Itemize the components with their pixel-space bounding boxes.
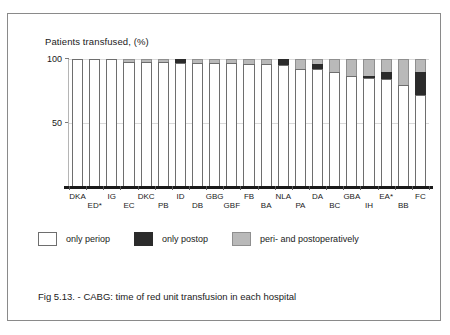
- bar-segment-only-periop: [312, 69, 323, 187]
- bar-segment-only-periop: [192, 63, 203, 187]
- x-axis-tick: [412, 186, 413, 190]
- bar-ed: [89, 59, 100, 187]
- legend-item-only-postop: only postop: [134, 232, 208, 246]
- x-axis-label-gbf: GBF: [218, 201, 246, 210]
- x-axis-tick: [360, 186, 361, 190]
- bar-segment-only-periop: [243, 64, 254, 187]
- x-axis-label-bc: BC: [321, 201, 349, 210]
- x-axis-label-dkc: DKC: [132, 192, 160, 201]
- bar-segment-only-periop: [175, 63, 186, 187]
- bar-db: [192, 59, 203, 187]
- bar-segment-only-periop: [261, 64, 272, 187]
- x-axis-label-ig: IG: [98, 192, 126, 201]
- bar-dkc: [141, 59, 152, 187]
- x-axis-tick: [69, 186, 70, 190]
- bar-ea: [381, 59, 392, 187]
- bar-gbg: [209, 59, 220, 187]
- legend-item-only-periop: only periop: [38, 232, 110, 246]
- x-axis-label-fb: FB: [235, 192, 263, 201]
- figure-frame: Patients transfused, (%) 100 50 DKAED*IG…: [7, 13, 441, 321]
- x-axis-tick: [258, 186, 259, 190]
- x-axis-tick: [326, 186, 327, 190]
- bar-segment-only-periop: [398, 85, 409, 187]
- bar-segment-peri-and-postoperatively: [363, 59, 374, 76]
- bar-da: [312, 59, 323, 187]
- x-axis-tick: [395, 186, 396, 190]
- bar-bc: [329, 59, 340, 187]
- legend-label-only-postop: only postop: [162, 234, 208, 244]
- bar-ig: [106, 59, 117, 187]
- white-square-icon: [38, 232, 57, 246]
- bar-dka: [72, 59, 83, 187]
- x-axis-tick: [292, 186, 293, 190]
- chart-legend: only periop only postop peri- and postop…: [38, 232, 359, 246]
- y-axis-tick-100: 100: [32, 54, 62, 64]
- x-axis-tick: [189, 186, 190, 190]
- bar-segment-only-periop: [106, 59, 117, 187]
- bar-segment-peri-and-postoperatively: [415, 59, 426, 72]
- bar-ih: [363, 59, 374, 187]
- x-axis-label-bb: BB: [389, 201, 417, 210]
- figure-caption: Fig 5.13. - CABG: time of red unit trans…: [38, 291, 296, 302]
- x-axis-label-ea: EA*: [372, 192, 400, 201]
- bar-fc: [415, 59, 426, 187]
- bar-fb: [243, 59, 254, 187]
- bar-segment-only-periop: [226, 63, 237, 187]
- x-axis-label-db: DB: [184, 201, 212, 210]
- bar-segment-only-periop: [209, 63, 220, 187]
- bar-pb: [158, 59, 169, 187]
- x-axis-label-pb: PB: [149, 201, 177, 210]
- x-axis-tick: [138, 186, 139, 190]
- x-axis-tick: [275, 186, 276, 190]
- x-axis-label-fc: FC: [406, 192, 434, 201]
- x-axis-tick: [172, 186, 173, 190]
- x-axis-tick: [240, 186, 241, 190]
- bar-gbf: [226, 59, 237, 187]
- x-axis-label-ih: IH: [355, 201, 383, 210]
- x-axis-label-da: DA: [304, 192, 332, 201]
- bar-segment-only-periop: [363, 78, 374, 187]
- legend-label-peri-and-postoperatively: peri- and postoperatively: [260, 234, 359, 244]
- bar-segment-only-postop: [381, 72, 392, 80]
- bar-segment-only-periop: [278, 65, 289, 187]
- bar-segment-only-periop: [295, 69, 306, 187]
- bar-ba: [261, 59, 272, 187]
- x-axis-tick: [343, 186, 344, 190]
- x-axis-tick: [223, 186, 224, 190]
- bar-segment-only-periop: [158, 62, 169, 187]
- bar-segment-peri-and-postoperatively: [346, 59, 357, 76]
- bar-segment-peri-and-postoperatively: [329, 59, 340, 72]
- x-axis-tick: [206, 186, 207, 190]
- x-axis-tick: [309, 186, 310, 190]
- bar-ec: [123, 59, 134, 187]
- x-axis-tick: [155, 186, 156, 190]
- x-axis-label-ed: ED*: [81, 201, 109, 210]
- bar-segment-only-periop: [123, 62, 134, 187]
- bar-segment-only-postop: [415, 72, 426, 95]
- black-square-icon: [134, 232, 153, 246]
- bar-nla: [278, 59, 289, 187]
- bar-segment-only-periop: [381, 79, 392, 187]
- bar-segment-only-periop: [89, 59, 100, 187]
- x-axis-label-ec: EC: [115, 201, 143, 210]
- bar-id: [175, 59, 186, 187]
- bar-pa: [295, 59, 306, 187]
- gray-square-icon: [232, 232, 251, 246]
- chart-title: Patients transfused, (%): [45, 36, 149, 47]
- x-axis-tick: [120, 186, 121, 190]
- plot-area: [69, 59, 429, 187]
- bar-segment-only-periop: [346, 76, 357, 187]
- bar-segment-peri-and-postoperatively: [381, 59, 392, 72]
- x-axis-tick: [378, 186, 379, 190]
- x-axis-label-id: ID: [166, 192, 194, 201]
- x-axis-label-gba: GBA: [338, 192, 366, 201]
- bar-gba: [346, 59, 357, 187]
- bar-segment-only-periop: [415, 95, 426, 187]
- y-axis-tick-50: 50: [32, 118, 62, 128]
- bar-segment-only-periop: [329, 72, 340, 187]
- x-axis-tick: [86, 186, 87, 190]
- x-axis-tick: [103, 186, 104, 190]
- bar-segment-peri-and-postoperatively: [398, 59, 409, 85]
- legend-label-only-periop: only periop: [66, 234, 110, 244]
- bar-segment-peri-and-postoperatively: [295, 59, 306, 69]
